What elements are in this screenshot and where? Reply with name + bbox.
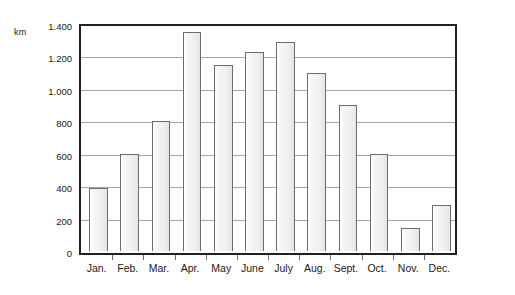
bar	[214, 65, 233, 251]
x-axis-tick-mark	[330, 255, 331, 260]
bar	[307, 73, 326, 251]
bar	[120, 154, 139, 251]
bar	[245, 52, 264, 251]
y-axis-tick-label: 0	[32, 248, 72, 259]
x-axis-tick-label: Mar.	[149, 262, 169, 274]
x-axis-tick-mark	[206, 255, 207, 260]
x-axis-tick-label: Jan.	[87, 262, 107, 274]
bar	[89, 188, 108, 251]
y-axis-tick-label: 200	[32, 215, 72, 226]
y-axis-unit-label: km	[14, 27, 26, 37]
x-axis-tick-label: Aug.	[304, 262, 326, 274]
x-axis-tick-mark	[299, 255, 300, 260]
x-axis-tick-label: Feb.	[117, 262, 138, 274]
x-axis-tick-label: Sept.	[334, 262, 359, 274]
y-axis-tick-label: 1.400	[32, 21, 72, 32]
x-axis-tick-mark	[424, 255, 425, 260]
x-axis-tick-mark	[175, 255, 176, 260]
bar	[432, 205, 451, 251]
x-axis-tick-mark	[393, 255, 394, 260]
x-axis-tick-mark	[237, 255, 238, 260]
bar	[183, 32, 202, 251]
bar-group	[83, 28, 453, 251]
x-axis-tick-label-group: Jan.Feb.Mar.Apr.MayJuneJulyAug.Sept.Oct.…	[79, 262, 457, 282]
y-axis-tick-label-group: 02004006008001.0001.2001.400	[28, 24, 72, 255]
x-axis-tick-mark	[143, 255, 144, 260]
bar	[276, 42, 295, 251]
bar-chart-figure: km 02004006008001.0001.2001.400 Jan.Feb.…	[0, 0, 515, 295]
x-axis-tick-label: May	[211, 262, 231, 274]
bar	[401, 228, 420, 252]
x-axis-tick-mark	[112, 255, 113, 260]
x-axis-tick-mark-group	[79, 255, 457, 261]
x-axis-tick-mark	[362, 255, 363, 260]
y-axis-tick-label: 600	[32, 150, 72, 161]
y-axis-tick-label: 1.000	[32, 85, 72, 96]
x-axis-tick-label: Oct.	[367, 262, 386, 274]
plot-area	[79, 24, 457, 255]
y-axis-tick-label: 800	[32, 118, 72, 129]
x-axis-tick-label: June	[241, 262, 264, 274]
x-axis-tick-label: Nov.	[398, 262, 419, 274]
y-axis-tick-label: 1.200	[32, 53, 72, 64]
x-axis-tick-mark	[268, 255, 269, 260]
bar	[370, 154, 389, 251]
y-axis-tick-label: 400	[32, 183, 72, 194]
bar	[152, 121, 171, 251]
x-axis-tick-label: Apr.	[181, 262, 200, 274]
x-axis-tick-label: July	[274, 262, 293, 274]
x-axis-tick-label: Dec.	[429, 262, 451, 274]
bar	[339, 105, 358, 251]
